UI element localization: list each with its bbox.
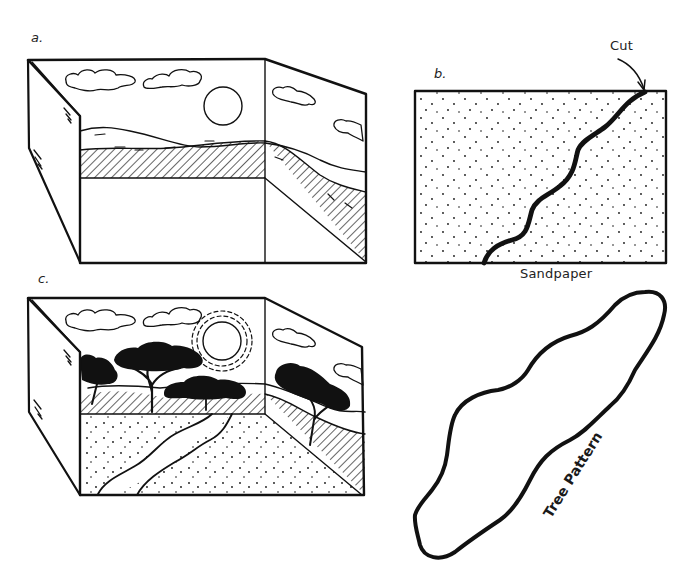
panel-a-hatched-ground: [80, 141, 265, 178]
panel-a-label: a.: [31, 30, 43, 45]
diagram-canvas: [0, 0, 694, 584]
sandpaper-caption: Sandpaper: [520, 266, 592, 281]
cut-callout-label: Cut: [610, 38, 633, 53]
panel-a-sun: [204, 87, 242, 125]
panel-b-label: b.: [434, 66, 446, 81]
tree-pattern-outline: [415, 292, 665, 558]
panel-c-sun: [203, 322, 241, 360]
panel-c-diorama: [28, 298, 365, 495]
panel-a-box: [28, 59, 366, 263]
panel-b-sandpaper: [415, 59, 666, 263]
panel-c-label: c.: [38, 271, 49, 286]
